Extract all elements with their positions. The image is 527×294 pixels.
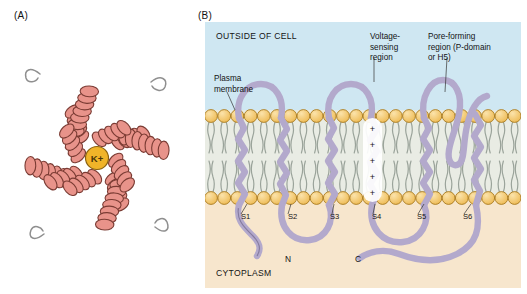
positive-charge: + <box>370 156 375 166</box>
panel-a-letter: (A) <box>14 10 28 21</box>
potassium-ion: K+ <box>86 147 109 170</box>
voltage-sensing-region-label: Voltage- sensing region <box>370 32 400 64</box>
positive-charge: + <box>370 188 375 198</box>
panel-b-letter: (B) <box>198 10 212 21</box>
segment-label-s2: S2 <box>288 212 297 221</box>
segment-label-s4: S4 <box>372 212 381 221</box>
segment-label-s3: S3 <box>330 212 339 221</box>
plasma-membrane-label: Plasma membrane <box>214 74 253 95</box>
cytoplasm-label: CYTOPLASM <box>216 268 272 279</box>
segment-label-s5: S5 <box>417 212 426 221</box>
outside-of-cell-label: OUTSIDE OF CELL <box>216 31 297 42</box>
potassium-ion-label: K+ <box>91 153 104 164</box>
terminus-label-c: C <box>355 254 361 264</box>
positive-charge: + <box>370 140 375 150</box>
positive-charge: + <box>370 172 375 182</box>
s4-charge-band: +++++ <box>363 118 382 202</box>
pore-forming-region-label: Pore-forming region (P-domain or H5) <box>428 32 491 64</box>
panel-a-structure-diagram: K+ <box>0 22 195 294</box>
segment-label-s1: S1 <box>241 212 250 221</box>
segment-label-s6: S6 <box>463 212 472 221</box>
positive-charge: + <box>370 124 375 134</box>
terminus-label-n: N <box>285 254 291 264</box>
